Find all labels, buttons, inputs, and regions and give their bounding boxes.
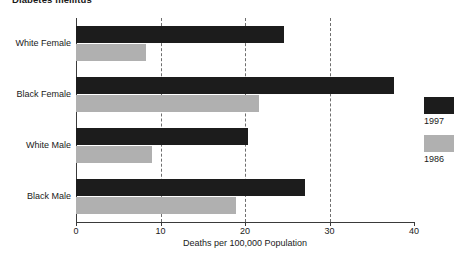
x-tick-label: 0 (61, 226, 91, 236)
chart-page: Diabetes mellitus White FemaleBlack Fema… (0, 0, 464, 259)
bar-black-female-1986 (76, 95, 259, 112)
plot-area (76, 18, 414, 222)
gridline (330, 18, 331, 222)
legend-swatch-1986 (424, 135, 454, 152)
category-label: White Male (1, 140, 71, 150)
bar-white-female-1986 (76, 44, 146, 61)
chart-title: Diabetes mellitus (12, 0, 92, 5)
legend-label-1997: 1997 (424, 116, 464, 126)
legend-label-1986: 1986 (424, 154, 464, 164)
bar-white-male-1986 (76, 146, 152, 163)
bar-black-male-1997 (76, 179, 305, 196)
x-tick-label: 20 (230, 226, 260, 236)
bar-black-female-1997 (76, 77, 394, 94)
bar-black-male-1986 (76, 197, 236, 214)
x-tick-label: 40 (399, 226, 429, 236)
bar-white-female-1997 (76, 26, 284, 43)
x-tick-label: 10 (146, 226, 176, 236)
category-label: White Female (1, 38, 71, 48)
bar-white-male-1997 (76, 128, 248, 145)
y-axis-category-labels: White FemaleBlack FemaleWhite MaleBlack … (0, 18, 71, 222)
chart-legend: 19971986 (424, 97, 464, 173)
x-tick-label: 30 (315, 226, 345, 236)
category-label: Black Male (1, 191, 71, 201)
legend-swatch-1997 (424, 97, 454, 114)
category-label: Black Female (1, 89, 71, 99)
x-axis-label: Deaths per 100,000 Population (76, 238, 414, 248)
